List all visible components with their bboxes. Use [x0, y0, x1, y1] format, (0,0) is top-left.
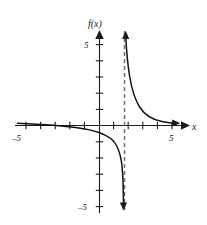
x-axis-label: x [191, 121, 197, 132]
x-axis-arrowhead [181, 121, 190, 129]
y-tick-label-5: 5 [84, 40, 89, 50]
y-axis [95, 30, 103, 213]
y-tick-label-minus5: –5 [77, 202, 88, 212]
curve-left-branch [18, 123, 124, 204]
curve-right-branch [126, 38, 176, 123]
function-graph-figure: f(x) x –5 5 5 –5 [0, 0, 207, 225]
curve-right-top-arrowhead [122, 31, 129, 39]
graph-canvas: f(x) x –5 5 5 –5 [0, 0, 207, 225]
y-axis-arrowhead [95, 30, 103, 39]
x-tick-label-5: 5 [169, 133, 174, 143]
curve-left-bottom-arrowhead [120, 203, 127, 211]
x-tick-label-minus5: –5 [11, 133, 22, 143]
y-axis-label: f(x) [88, 18, 103, 30]
